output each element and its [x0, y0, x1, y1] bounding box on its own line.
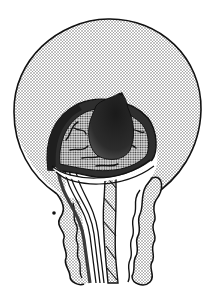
right-wavy-wall	[128, 177, 162, 285]
anatomical-diagram	[0, 0, 215, 301]
